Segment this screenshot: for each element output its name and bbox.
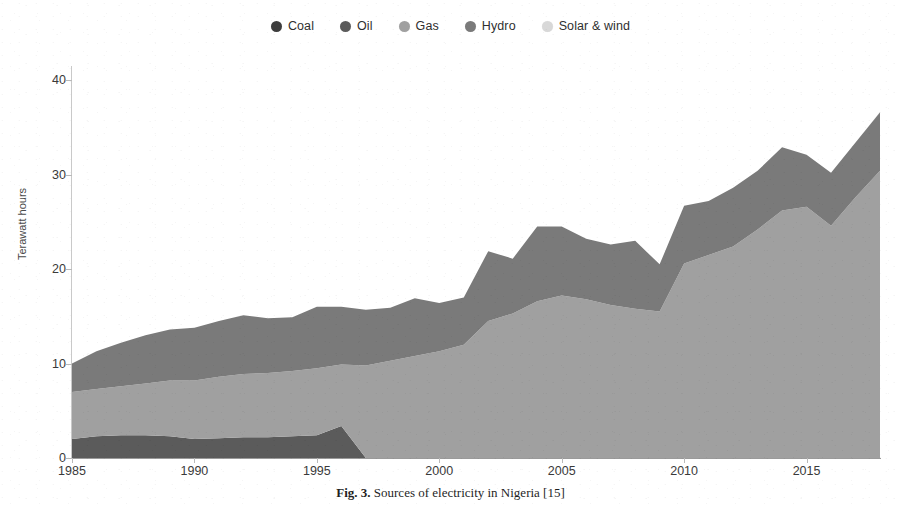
x-tick-label-1995: 1995 (303, 464, 331, 478)
stacked-area-chart (72, 66, 880, 458)
x-tick-mark (562, 458, 563, 463)
x-tick-mark (807, 458, 808, 463)
figure-container: Coal Oil Gas Hydro Solar & wind Terawatt… (0, 0, 901, 505)
plot-area (72, 66, 880, 458)
x-tick-mark (317, 458, 318, 463)
x-tick-label-2000: 2000 (425, 464, 453, 478)
x-tick-mark (439, 458, 440, 463)
legend-item-coal[interactable]: Coal (271, 19, 314, 33)
legend-dot-icon-solar-wind (542, 21, 553, 32)
y-tick-label-20: 20 (36, 262, 66, 276)
figure-caption-label: Fig. 3. (336, 485, 370, 500)
legend-label-hydro: Hydro (482, 19, 516, 33)
x-tick-label-1990: 1990 (181, 464, 209, 478)
chart-legend: Coal Oil Gas Hydro Solar & wind (0, 14, 901, 38)
x-tick-mark (194, 458, 195, 463)
figure-caption-text: Sources of electricity in Nigeria [15] (374, 485, 565, 500)
y-tick-label-0: 0 (36, 451, 66, 465)
x-tick-mark (72, 458, 73, 463)
area-series-group (72, 112, 880, 458)
legend-item-gas[interactable]: Gas (399, 19, 439, 33)
legend-dot-icon-gas (399, 21, 410, 32)
figure-caption: Fig. 3. Sources of electricity in Nigeri… (0, 485, 901, 501)
x-tick-label-1985: 1985 (58, 464, 86, 478)
y-tick-label-40: 40 (36, 73, 66, 87)
y-tick-label-30: 30 (36, 168, 66, 182)
legend-item-solar-wind[interactable]: Solar & wind (542, 19, 630, 33)
x-tick-label-2010: 2010 (670, 464, 698, 478)
legend-dot-icon-hydro (465, 21, 476, 32)
legend-dot-icon-oil (340, 21, 351, 32)
x-tick-mark (684, 458, 685, 463)
legend-item-hydro[interactable]: Hydro (465, 19, 516, 33)
y-tick-label-10: 10 (36, 357, 66, 371)
x-tick-label-2015: 2015 (793, 464, 821, 478)
legend-label-coal: Coal (288, 19, 314, 33)
legend-label-gas: Gas (416, 19, 439, 33)
x-tick-label-2005: 2005 (548, 464, 576, 478)
legend-item-oil[interactable]: Oil (340, 19, 373, 33)
y-axis-title: Terawatt hours (16, 164, 28, 284)
legend-label-solar-wind: Solar & wind (559, 19, 630, 33)
legend-label-oil: Oil (357, 19, 373, 33)
x-axis-line (71, 458, 881, 459)
legend-dot-icon-coal (271, 21, 282, 32)
